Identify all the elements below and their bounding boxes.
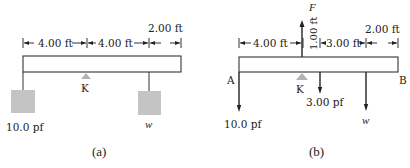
- left-force-arrowhead-icon: [237, 105, 241, 112]
- beam-weight-arrowhead-icon: [318, 87, 322, 94]
- figure-b: F 4.00 ft 1.00 ft 3.00 ft 2.00 ft: [224, 1, 407, 159]
- force-f-arrowhead-icon: [300, 20, 305, 27]
- dimension-label-a-2: 4.00 ft: [98, 37, 134, 49]
- left-mass-block: [11, 90, 35, 113]
- right-force-arrowhead-icon: [364, 104, 368, 111]
- right-mass-block: [138, 91, 161, 115]
- dimension-label-b-4: 2.00 ft: [365, 23, 401, 35]
- pivot-support-b: [296, 73, 308, 80]
- caption-b: (b): [309, 144, 324, 159]
- dimension-label-b-1: 4.00 ft: [253, 37, 289, 49]
- pivot-label-b: K: [296, 83, 304, 95]
- pivot-support-a: [81, 73, 91, 79]
- end-label-a: A: [226, 74, 235, 86]
- pivot-label-a: K: [81, 82, 89, 94]
- figure-a: 4.00 ft 4.00 ft 2.00 ft K 10.0 pf w (a): [6, 22, 184, 159]
- dimension-label-a-3: 2.00 ft: [148, 22, 184, 34]
- dimension-label-a-1: 4.00 ft: [38, 37, 74, 49]
- lever-diagrams: 4.00 ft 4.00 ft 2.00 ft K 10.0 pf w (a) …: [0, 0, 410, 168]
- dimension-label-b-3: 3.00 ft: [326, 37, 362, 49]
- beam-weight-label: 3.00 pf: [306, 96, 344, 108]
- left-force-label: 10.0 pf: [224, 118, 262, 130]
- beam-a: [23, 56, 181, 72]
- caption-a: (a): [92, 144, 106, 159]
- dimension-label-b-2: 1.00 ft: [308, 17, 319, 50]
- right-weight-label-a: w: [145, 118, 153, 130]
- end-label-b: B: [399, 74, 407, 86]
- left-weight-label-a: 10.0 pf: [6, 121, 44, 133]
- force-f-label: F: [308, 1, 316, 13]
- beam-b: [239, 57, 398, 72]
- right-force-label: w: [362, 114, 370, 126]
